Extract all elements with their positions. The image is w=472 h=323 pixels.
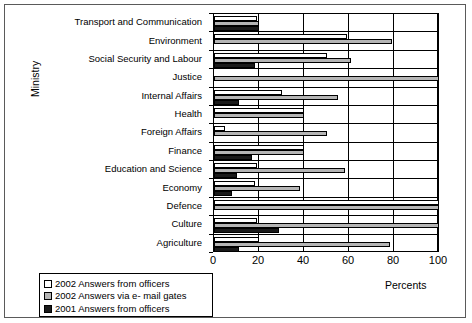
- x-axis-label: Percents: [385, 279, 426, 291]
- bar: [214, 100, 239, 105]
- bar-group: [214, 105, 439, 123]
- y-axis-tick: [209, 197, 213, 198]
- y-axis-tick: [209, 234, 213, 235]
- category-label: Internal Affairs: [141, 91, 202, 101]
- bar: [214, 191, 232, 196]
- category-label: Education and Science: [105, 164, 202, 174]
- bar: [214, 155, 252, 160]
- category-label: Justice: [172, 72, 202, 82]
- category-label: Agriculture: [157, 238, 202, 248]
- x-tick-label-60: 60: [333, 254, 363, 266]
- legend-label: 2002 Answers via e- mail gates: [55, 291, 186, 301]
- category-label: Health: [175, 109, 202, 119]
- category-label: Social Security and Labour: [88, 54, 202, 64]
- legend-swatch: [44, 305, 52, 313]
- category-label-list: Transport and CommunicationEnvironmentSo…: [25, 13, 206, 252]
- x-axis-tick-labels: 020406080100: [209, 254, 445, 270]
- x-tick-label-80: 80: [378, 254, 408, 266]
- bar: [214, 26, 259, 31]
- bar-group: [214, 68, 439, 86]
- x-tick-label-0: 0: [198, 254, 228, 266]
- y-axis-tick: [209, 178, 213, 179]
- x-tick-label-100: 100: [423, 254, 453, 266]
- y-axis-tick: [209, 123, 213, 124]
- chart-legend: 2002 Answers from officers2002 Answers v…: [39, 273, 213, 317]
- bar-group: [214, 197, 439, 215]
- bar: [214, 39, 392, 44]
- legend-item: 2001 Answers from officers: [44, 303, 208, 315]
- y-axis-tick: [209, 142, 213, 143]
- bar-group: [214, 160, 439, 178]
- legend-item: 2002 Answers from officers: [44, 278, 208, 290]
- category-label: Foreign Affairs: [141, 127, 202, 137]
- x-tick-label-20: 20: [243, 254, 273, 266]
- bar: [214, 113, 304, 118]
- x-tick-label-40: 40: [288, 254, 318, 266]
- category-label: Environment: [149, 36, 202, 46]
- bar-group: [214, 31, 439, 49]
- category-label: Economy: [162, 183, 202, 193]
- bar-group: [214, 142, 439, 160]
- y-axis-tick: [209, 105, 213, 106]
- bar-group: [214, 123, 439, 141]
- y-axis-tick: [209, 50, 213, 51]
- y-axis-tick: [209, 252, 213, 253]
- bar-group: [214, 13, 439, 31]
- legend-label: 2001 Answers from officers: [55, 304, 169, 314]
- bar: [214, 228, 279, 233]
- bar-group: [214, 178, 439, 196]
- category-label: Culture: [171, 219, 202, 229]
- y-axis-tick: [209, 160, 213, 161]
- y-axis-tick: [209, 215, 213, 216]
- bar-group: [214, 50, 439, 68]
- bar: [214, 173, 237, 178]
- legend-swatch: [44, 292, 52, 300]
- legend-item: 2002 Answers via e- mail gates: [44, 290, 208, 302]
- bar: [214, 247, 239, 252]
- chart-frame: Ministry Transport and CommunicationEnvi…: [4, 4, 466, 318]
- bar: [214, 242, 390, 247]
- bar-group: [214, 87, 439, 105]
- bar: [214, 76, 439, 81]
- legend-swatch: [44, 280, 52, 288]
- bar-group: [214, 215, 439, 233]
- y-axis-tick: [209, 87, 213, 88]
- y-axis-tick: [209, 31, 213, 32]
- category-label: Finance: [168, 146, 202, 156]
- category-label: Transport and Communication: [75, 17, 202, 27]
- bar: [214, 131, 327, 136]
- category-label: Defence: [167, 201, 202, 211]
- bar: [214, 63, 255, 68]
- y-axis-tick: [209, 13, 213, 14]
- bar: [214, 205, 439, 210]
- legend-label: 2002 Answers from officers: [55, 279, 169, 289]
- plot-area: [209, 13, 438, 252]
- y-axis-tick: [209, 68, 213, 69]
- bar-group: [214, 234, 439, 252]
